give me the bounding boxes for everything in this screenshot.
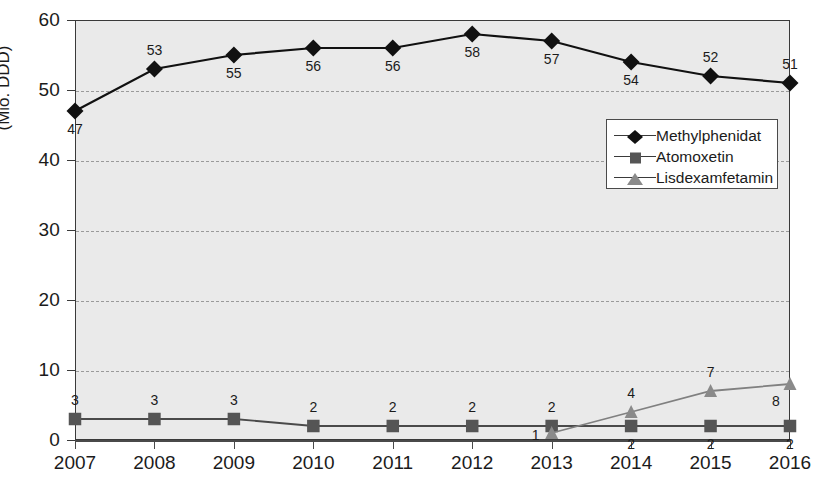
data-point-label: 56 <box>373 58 413 74</box>
data-point-label: 3 <box>55 392 95 408</box>
y-tick-mark <box>67 90 75 91</box>
data-point-label: 7 <box>691 364 731 380</box>
legend-item-lisdexamfetamin[interactable]: Lisdexamfetamin <box>607 167 777 188</box>
y-tick-label: 40 <box>18 149 60 171</box>
x-tick-label: 2012 <box>432 452 512 474</box>
x-tick-label: 2011 <box>353 452 433 474</box>
y-axis-title: (Mio. DDD) <box>0 8 14 168</box>
x-tick-label: 2009 <box>194 452 274 474</box>
y-tick-mark <box>67 300 75 301</box>
x-tick-mark <box>154 440 155 449</box>
data-point-label: 1 <box>516 427 556 443</box>
y-tick-label: 30 <box>18 219 60 241</box>
data-point-label: 8 <box>756 393 796 409</box>
x-tick-mark <box>234 440 235 449</box>
x-tick-label: 2013 <box>512 452 592 474</box>
legend-label-atomoxetin: Atomoxetin <box>656 148 734 166</box>
x-tick-mark <box>472 440 473 449</box>
x-tick-mark <box>393 440 394 449</box>
y-tick-mark <box>67 440 75 441</box>
triangle-marker-icon <box>614 169 656 187</box>
data-point-label: 56 <box>293 58 333 74</box>
gridline-10 <box>76 371 789 372</box>
data-point-label: 3 <box>134 392 174 408</box>
chart-container: (Mio. DDD) 0102030405060 200720082009201… <box>0 0 814 489</box>
x-tick-label: 2016 <box>750 452 814 474</box>
gridline-50 <box>76 91 789 92</box>
legend-label-methylphenidat: Methylphenidat <box>656 127 761 145</box>
data-point-label: 2 <box>611 436 651 452</box>
data-point-label: 58 <box>452 44 492 60</box>
x-tick-label: 2015 <box>671 452 751 474</box>
gridline-20 <box>76 301 789 302</box>
x-tick-label: 2014 <box>591 452 671 474</box>
data-point-label: 52 <box>691 49 731 65</box>
y-tick-mark <box>67 230 75 231</box>
data-point-label: 2 <box>770 436 810 452</box>
data-point-label: 2 <box>452 399 492 415</box>
x-tick-label: 2010 <box>273 452 353 474</box>
legend-item-atomoxetin[interactable]: Atomoxetin <box>607 146 777 167</box>
x-tick-label: 2008 <box>114 452 194 474</box>
legend: Methylphenidat Atomoxetin Lisdexamfetami… <box>606 119 778 189</box>
y-tick-mark <box>67 20 75 21</box>
data-point-label: 54 <box>611 72 651 88</box>
y-tick-mark <box>67 160 75 161</box>
gridline-30 <box>76 231 789 232</box>
data-point-label: 2 <box>532 399 572 415</box>
legend-label-lisdexamfetamin: Lisdexamfetamin <box>656 169 773 187</box>
y-tick-label: 0 <box>18 429 60 451</box>
data-point-label: 57 <box>532 51 572 67</box>
data-point-label: 55 <box>214 65 254 81</box>
legend-item-methylphenidat[interactable]: Methylphenidat <box>607 125 777 146</box>
x-axis-line <box>75 440 791 442</box>
y-tick-label: 20 <box>18 289 60 311</box>
data-point-label: 4 <box>611 385 651 401</box>
y-tick-label: 10 <box>18 359 60 381</box>
data-point-label: 47 <box>55 121 95 137</box>
data-point-label: 2 <box>691 436 731 452</box>
square-marker-icon <box>614 148 656 166</box>
data-point-label: 53 <box>134 42 174 58</box>
data-point-label: 3 <box>214 392 254 408</box>
diamond-marker-icon <box>614 127 656 145</box>
data-point-label: 2 <box>293 399 333 415</box>
y-tick-label: 60 <box>18 9 60 31</box>
data-point-label: 2 <box>373 399 413 415</box>
y-tick-label: 50 <box>18 79 60 101</box>
x-tick-mark <box>75 440 76 449</box>
x-tick-label: 2007 <box>35 452 115 474</box>
plot-area <box>75 20 790 440</box>
data-point-label: 51 <box>770 56 810 72</box>
y-tick-mark <box>67 370 75 371</box>
x-tick-mark <box>313 440 314 449</box>
